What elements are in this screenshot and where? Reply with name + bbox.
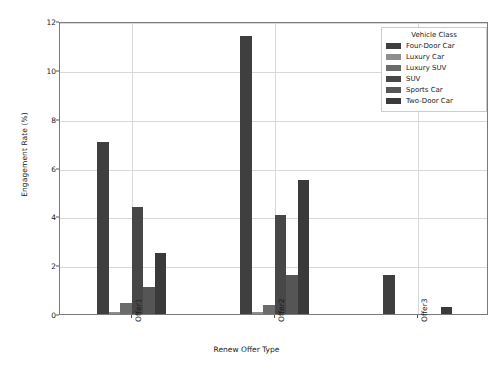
bar [286,275,298,314]
y-tick-label: 6 [22,164,56,173]
legend-item: Two-Door Car [386,96,482,106]
y-tick-label: 0 [22,311,56,320]
y-tick-label: 10 [22,66,56,75]
legend-swatch-icon [386,54,401,60]
legend-title: Vehicle Class [386,31,482,39]
y-gridline [60,23,487,24]
y-tick-label: 8 [22,115,56,124]
bar [240,36,252,314]
y-gridline [60,218,487,219]
y-tick-mark [56,70,59,71]
legend-item: SUV [386,74,482,84]
y-tick-mark [56,266,59,267]
legend-item: Sports Car [386,85,482,95]
bar [120,303,132,314]
legend-item-label: Two-Door Car [406,97,453,105]
legend-item-label: Luxury SUV [406,64,446,72]
y-gridline [60,267,487,268]
bar [441,307,453,314]
legend-item: Luxury Car [386,52,482,62]
y-tick-mark [56,22,59,23]
y-tick-mark [56,217,59,218]
legend-item-label: Sports Car [406,86,443,94]
legend-item-label: Luxury Car [406,53,444,61]
legend-item: Four-Door Car [386,41,482,51]
bar [263,305,275,314]
y-tick-mark [56,119,59,120]
legend-swatch-icon [386,43,401,49]
legend-item-label: SUV [406,75,420,83]
legend: Vehicle Class Four-Door CarLuxury CarLux… [381,27,487,112]
legend-swatch-icon [386,98,401,104]
x-tick-label: Offer3 [420,298,429,322]
y-axis-ticks: 024681012 [22,0,56,369]
legend-entries: Four-Door CarLuxury CarLuxury SUVSUVSpor… [386,41,482,106]
x-tick-mark [417,315,418,318]
x-tick-label: Offer2 [277,298,286,322]
x-tick-mark [274,315,275,318]
y-tick-mark [56,315,59,316]
y-tick-label: 4 [22,213,56,222]
bar [252,312,264,314]
y-tick-mark [56,168,59,169]
bar [143,287,155,314]
x-tick-mark [131,315,132,318]
legend-swatch-icon [386,76,401,82]
legend-item: Luxury SUV [386,63,482,73]
y-tick-label: 12 [22,18,56,27]
bar [298,180,310,314]
bar [109,312,121,314]
y-gridline [60,121,487,122]
bar [383,275,395,314]
bar [155,253,167,314]
legend-swatch-icon [386,87,401,93]
x-axis-label: Renew Offer Type [0,345,493,354]
y-gridline [60,170,487,171]
bar-chart-figure: Engagement Rate (%) 024681012 Renew Offe… [0,0,493,369]
bar [97,142,109,314]
y-tick-label: 2 [22,262,56,271]
legend-swatch-icon [386,65,401,71]
legend-item-label: Four-Door Car [406,42,455,50]
x-tick-label: Offer1 [134,298,143,322]
